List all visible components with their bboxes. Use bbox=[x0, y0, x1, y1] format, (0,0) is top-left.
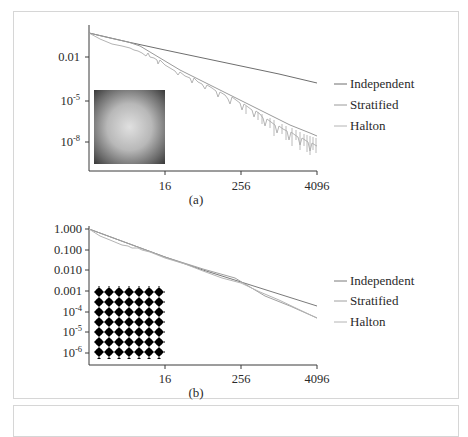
y-tick-label: 0.010 bbox=[54, 263, 82, 277]
inset-gradient-image bbox=[94, 90, 165, 164]
legend-b: Independent Stratified Halton bbox=[334, 273, 415, 329]
y-tick-label: 10-6 bbox=[62, 344, 82, 360]
legend-label-halton: Halton bbox=[350, 314, 386, 329]
legend-label-stratified: Stratified bbox=[350, 97, 399, 112]
y-tick-label: 10-4 bbox=[62, 303, 82, 319]
x-tick-label: 4096 bbox=[305, 179, 330, 193]
inset-checker-image bbox=[94, 286, 165, 359]
y-tick-label: 10-5 bbox=[60, 92, 80, 108]
legend-label-halton: Halton bbox=[350, 118, 386, 133]
caption-a: (a) bbox=[189, 192, 203, 207]
x-tick-label: 4096 bbox=[305, 372, 330, 386]
y-tick-label: 0.001 bbox=[54, 284, 82, 298]
y-tick-label: 10-8 bbox=[60, 133, 80, 149]
x-tick-label: 256 bbox=[232, 179, 251, 193]
chart-a: 0.01 10-5 10-8 16 256 4096 bbox=[58, 25, 415, 207]
caption-b: (b) bbox=[188, 385, 203, 400]
x-tick-label: 16 bbox=[159, 372, 172, 386]
x-tick-label: 16 bbox=[159, 179, 172, 193]
x-tick-label: 256 bbox=[232, 372, 251, 386]
legend-a: Independent Stratified Halton bbox=[334, 76, 415, 133]
legend-label-stratified: Stratified bbox=[350, 293, 399, 308]
y-tick-label: 0.01 bbox=[58, 50, 80, 64]
legend-label-independent: Independent bbox=[350, 273, 415, 288]
chart-b: 1.000 0.100 0.010 0.001 10-4 10-5 10-6 1… bbox=[54, 222, 415, 400]
noise-band-a bbox=[246, 106, 316, 155]
y-tick-label: 0.100 bbox=[54, 243, 82, 257]
legend-label-independent: Independent bbox=[350, 76, 415, 91]
y-tick-label: 10-5 bbox=[62, 323, 82, 339]
y-tick-label: 1.000 bbox=[54, 222, 82, 236]
